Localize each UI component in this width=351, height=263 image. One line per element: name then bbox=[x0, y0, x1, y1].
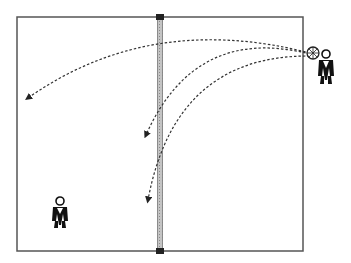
volleyball-icon bbox=[307, 47, 319, 59]
net-post-bottom bbox=[156, 248, 164, 254]
player-server-icon bbox=[318, 50, 334, 84]
net-post-top bbox=[156, 14, 164, 20]
trajectory-serve-short bbox=[148, 56, 310, 200]
trajectory-serve-mid bbox=[146, 48, 310, 135]
volleyball-court-diagram bbox=[0, 0, 351, 263]
player-receiver-icon bbox=[52, 197, 68, 228]
net bbox=[156, 14, 164, 254]
serve-trajectories bbox=[28, 40, 310, 200]
